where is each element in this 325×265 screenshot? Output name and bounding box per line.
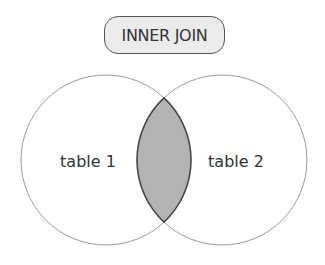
venn-diagram: table 1 table 2 — [0, 0, 325, 265]
table-2-label: table 2 — [208, 152, 264, 171]
table-1-label: table 1 — [60, 152, 116, 171]
